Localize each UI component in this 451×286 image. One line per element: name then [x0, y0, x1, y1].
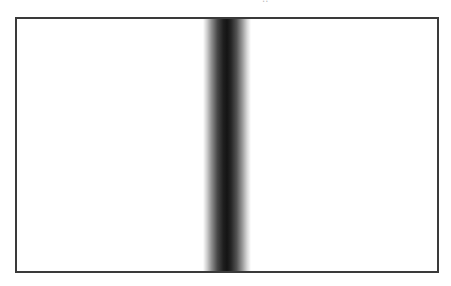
clipped-title-text: .. [262, 0, 268, 4]
dark-vertical-band [203, 19, 251, 271]
image-frame [15, 17, 439, 273]
